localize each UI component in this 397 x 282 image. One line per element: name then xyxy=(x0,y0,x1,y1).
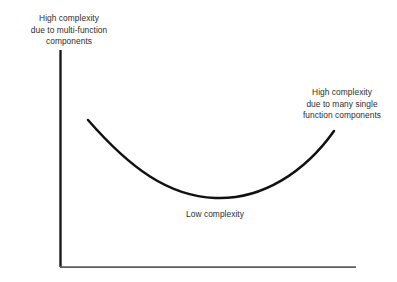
annotation-line: High complexity xyxy=(14,13,124,25)
complexity-curve xyxy=(88,120,334,198)
annotation-high-complexity-multifunction: High complexity due to multi-function co… xyxy=(14,13,124,48)
annotation-high-complexity-single-function: High complexity due to many single funct… xyxy=(290,87,394,122)
annotation-line: High complexity xyxy=(290,87,394,99)
annotation-low-complexity: Low complexity xyxy=(168,209,262,221)
annotation-line: Low complexity xyxy=(168,209,262,221)
annotation-line: function components xyxy=(290,110,394,122)
annotation-line: due to multi-function xyxy=(14,25,124,37)
annotation-line: due to many single xyxy=(290,99,394,111)
complexity-curve-figure: High complexity due to multi-function co… xyxy=(0,0,397,282)
annotation-line: components xyxy=(14,36,124,48)
